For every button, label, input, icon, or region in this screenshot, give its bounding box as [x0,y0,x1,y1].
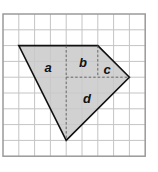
region-label-b: b [79,55,87,70]
grid-diagram: a b c d [0,0,158,172]
region-label-c: c [103,62,111,77]
region-label-d: d [83,91,92,106]
region-label-a: a [44,60,51,75]
